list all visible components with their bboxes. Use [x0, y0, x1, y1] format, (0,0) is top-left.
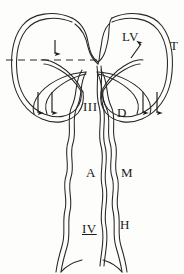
interlobar-bridge-upper: [72, 18, 112, 62]
label-t: T: [170, 39, 178, 52]
caudal-tail-left-edge: [61, 260, 82, 272]
label-iii: III: [83, 100, 98, 113]
label-iv: IV: [82, 222, 97, 235]
label-m: M: [121, 166, 133, 179]
interlobar-bridge-lower: [75, 24, 98, 64]
caudal-tail-right-edge: [103, 260, 122, 272]
label-lv: LV: [122, 30, 139, 43]
label-d: D: [117, 106, 126, 119]
central-tube-left-wall-outer: [56, 70, 82, 272]
anatomical-diagram-figure: LV T III D A M IV H: [0, 0, 184, 274]
left-lobe-inner-contour: [17, 18, 82, 116]
right-lobe-arrow-upper: [131, 44, 141, 58]
label-a: A: [86, 166, 95, 179]
label-h: H: [120, 218, 129, 231]
